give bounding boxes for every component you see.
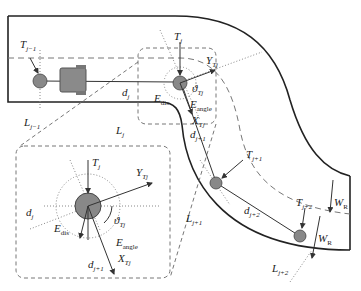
label-d-j: dj <box>122 86 130 101</box>
label-L-next2: Lj+2 <box>271 262 289 277</box>
label-T-next: Tj+1 <box>246 148 262 163</box>
d-next-segment <box>182 85 216 182</box>
Y-axis-arrow <box>180 70 215 83</box>
zoom-connector-right <box>170 124 216 278</box>
label-T-prev: Tj−1 <box>20 38 36 53</box>
T-next2-pointer <box>302 208 305 228</box>
label-Y-Tj: YTj <box>206 54 218 69</box>
d-next2-segment <box>218 184 298 235</box>
vehicle-icon <box>60 65 86 95</box>
label-E-angle: Eangle <box>189 98 212 113</box>
target-next <box>210 177 222 189</box>
label-W-R-2: WR <box>318 232 332 247</box>
target-next2 <box>294 230 306 242</box>
label-T-next2: Tj+2 <box>296 196 313 211</box>
label-E-dis: Edis <box>153 92 169 107</box>
label-L-prev: Lj−1 <box>23 116 40 131</box>
diagram-canvas: Tj−1 Lj−1 dj Lj Tj YTj ϑTj Edis Eangle X… <box>0 0 361 291</box>
L-next2-line <box>290 250 312 282</box>
label-L-j: Lj <box>115 124 124 139</box>
label-L-next: Lj+1 <box>185 212 202 227</box>
label-T-j: Tj <box>174 30 182 45</box>
label-X-Tj: XTj <box>191 114 205 129</box>
target-prev <box>33 74 47 88</box>
T-prev-pointer <box>30 58 38 73</box>
label-W-R-1: WR <box>334 196 348 211</box>
Y-axis-line <box>180 52 262 82</box>
W-R-dim-1 <box>330 180 333 212</box>
T-next-pointer <box>222 160 243 178</box>
label-theta: ϑTj <box>192 82 203 97</box>
